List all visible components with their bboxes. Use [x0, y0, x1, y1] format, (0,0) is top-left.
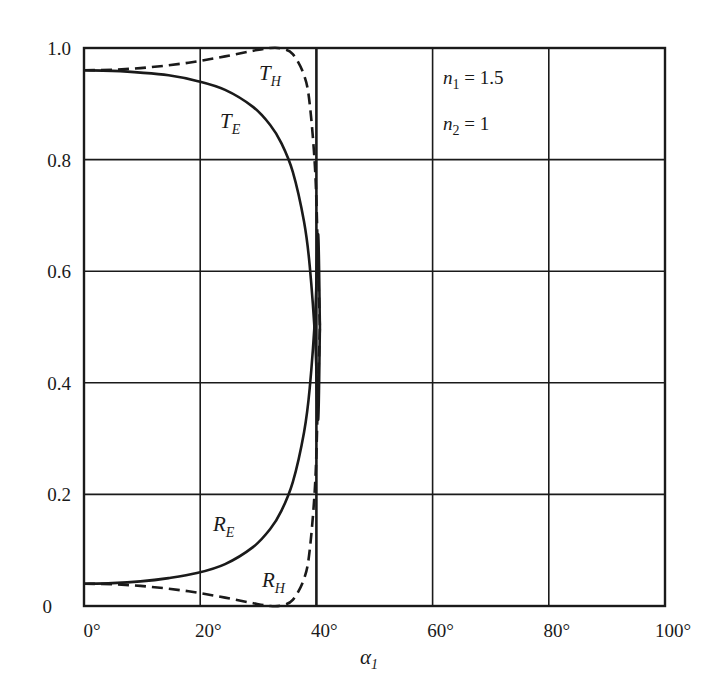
- curve-t-e: [84, 70, 320, 419]
- x-axis-label-sub: 1: [371, 657, 378, 672]
- curve-label-t-h: TH: [259, 61, 282, 89]
- curve-label-t-e: TE: [220, 109, 241, 137]
- annotation-n2: n2 = 1: [443, 113, 489, 138]
- y-tick-labels: 00.20.40.60.81.0: [43, 38, 72, 617]
- y-tick-label: 0: [43, 596, 53, 617]
- x-tick-labels: 0°20°40°60°80°100°: [83, 620, 691, 641]
- curve-t-h: [84, 48, 320, 327]
- curve-label-r-h: RH: [261, 568, 286, 596]
- y-tick-label: 0.2: [47, 484, 71, 505]
- x-tick-label: 20°: [195, 620, 222, 641]
- annotations: n1 = 1.5n2 = 1: [443, 67, 503, 138]
- curve-r-e: [84, 234, 320, 583]
- plot-frame: [84, 48, 665, 606]
- data-curves: [84, 48, 320, 607]
- y-tick-label: 0.8: [47, 150, 71, 171]
- x-tick-label: 80°: [543, 620, 570, 641]
- y-tick-label: 0.4: [47, 373, 71, 394]
- y-tick-label: 1.0: [47, 38, 71, 59]
- x-tick-label: 100°: [655, 620, 691, 641]
- y-tick-label: 0.6: [47, 261, 71, 282]
- curve-label-r-e: RE: [212, 512, 235, 540]
- x-tick-label: 40°: [311, 620, 338, 641]
- x-axis-label: α1: [360, 645, 378, 672]
- x-tick-label: 0°: [83, 620, 100, 641]
- grid-lines: [84, 48, 665, 606]
- annotation-n1: n1 = 1.5: [443, 67, 503, 92]
- curve-labels: TETHRERH: [212, 61, 286, 596]
- fresnel-chart: 0°20°40°60°80°100° 00.20.40.60.81.0 α1 n…: [0, 0, 716, 695]
- x-tick-label: 60°: [427, 620, 454, 641]
- curve-r-h: [84, 327, 320, 606]
